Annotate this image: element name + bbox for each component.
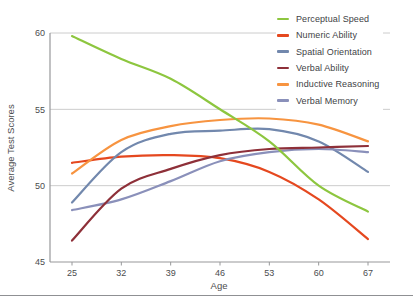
x-axis-title: Age (211, 280, 228, 291)
legend-swatch-inductive-reasoning (277, 83, 289, 86)
legend-swatch-spatial-orientation (277, 50, 289, 53)
legend-item-perceptual-speed: Perceptual Speed (277, 11, 379, 27)
legend-item-verbal-memory: Verbal Memory (277, 92, 379, 108)
legend-item-inductive-reasoning: Inductive Reasoning (277, 76, 379, 92)
legend-swatch-numeric-ability (277, 34, 289, 37)
legend-label-inductive-reasoning: Inductive Reasoning (296, 79, 379, 89)
y-tick-label-60: 60 (35, 28, 45, 38)
legend-swatch-verbal-ability (277, 67, 289, 70)
y-tick-label-45: 45 (35, 257, 45, 267)
x-tick-label-60: 60 (314, 268, 324, 278)
chart-legend: Perceptual SpeedNumeric AbilitySpatial O… (276, 10, 383, 110)
series-line-numeric-ability (72, 155, 368, 239)
legend-label-numeric-ability: Numeric Ability (296, 30, 357, 40)
legend-item-numeric-ability: Numeric Ability (277, 27, 379, 43)
legend-swatch-perceptual-speed (277, 18, 289, 21)
y-tick-label-50: 50 (35, 181, 45, 191)
legend-label-spatial-orientation: Spatial Orientation (296, 47, 372, 57)
legend-item-spatial-orientation: Spatial Orientation (277, 44, 379, 60)
y-axis-title: Average Test Scores (5, 104, 16, 192)
x-tick-label-53: 53 (264, 268, 274, 278)
y-tick-label-55: 55 (35, 105, 45, 115)
page-divider (0, 295, 413, 296)
x-tick-label-25: 25 (67, 268, 77, 278)
series-line-inductive-reasoning (72, 118, 368, 173)
legend-item-verbal-ability: Verbal Ability (277, 60, 379, 76)
legend-label-verbal-memory: Verbal Memory (296, 96, 358, 106)
chart-figure: 4550556025323946536067 Average Test Scor… (0, 0, 413, 307)
legend-label-verbal-ability: Verbal Ability (296, 63, 349, 73)
x-tick-label-67: 67 (363, 268, 373, 278)
x-tick-label-39: 39 (166, 268, 176, 278)
x-tick-label-32: 32 (116, 268, 126, 278)
x-tick-label-46: 46 (215, 268, 225, 278)
legend-label-perceptual-speed: Perceptual Speed (296, 14, 369, 24)
legend-swatch-verbal-memory (277, 99, 289, 102)
